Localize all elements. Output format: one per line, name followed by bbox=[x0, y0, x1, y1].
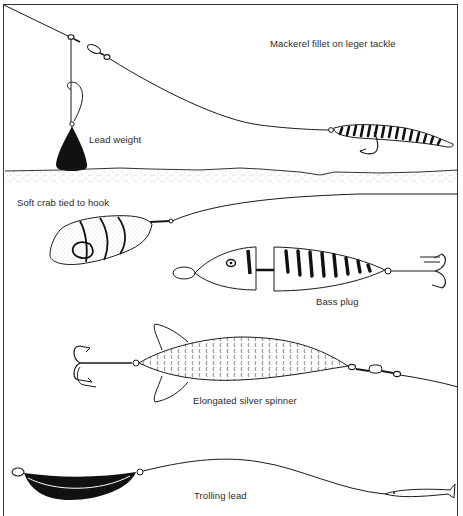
swivel-icon bbox=[349, 364, 401, 376]
label-bass-plug: Bass plug bbox=[316, 296, 359, 307]
small-fish-bait-icon bbox=[385, 484, 455, 498]
lead-weight-icon bbox=[56, 122, 87, 171]
label-trolling-lead: Trolling lead bbox=[194, 490, 247, 501]
trolling-lead-icon bbox=[12, 468, 143, 500]
swivel-icon bbox=[68, 35, 110, 60]
label-silver-spinner: Elongated silver spinner bbox=[193, 395, 297, 406]
label-lead-weight: Lead weight bbox=[89, 134, 141, 145]
treble-hook-icon bbox=[74, 346, 132, 387]
mackerel-fillet-icon bbox=[329, 125, 454, 154]
label-mackerel-leger: Mackerel fillet on leger tackle bbox=[270, 38, 396, 49]
sea-bed bbox=[5, 168, 458, 182]
leger-rig bbox=[4, 5, 458, 182]
spinner-rig bbox=[74, 324, 458, 402]
bass-plug-icon bbox=[173, 247, 445, 291]
soft-crab-icon bbox=[50, 216, 173, 265]
crab-and-plug bbox=[50, 194, 458, 291]
label-soft-crab: Soft crab tied to hook bbox=[17, 197, 109, 208]
